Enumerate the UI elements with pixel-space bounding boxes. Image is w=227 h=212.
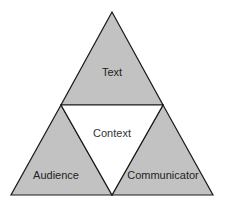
text-label: Text xyxy=(102,66,122,78)
triangle-diagram: Text Context Audience Communicator xyxy=(0,0,227,212)
communicator-label: Communicator xyxy=(127,169,199,181)
context-label: Context xyxy=(93,127,131,139)
audience-label: Audience xyxy=(33,169,79,181)
text-triangle xyxy=(61,12,163,105)
